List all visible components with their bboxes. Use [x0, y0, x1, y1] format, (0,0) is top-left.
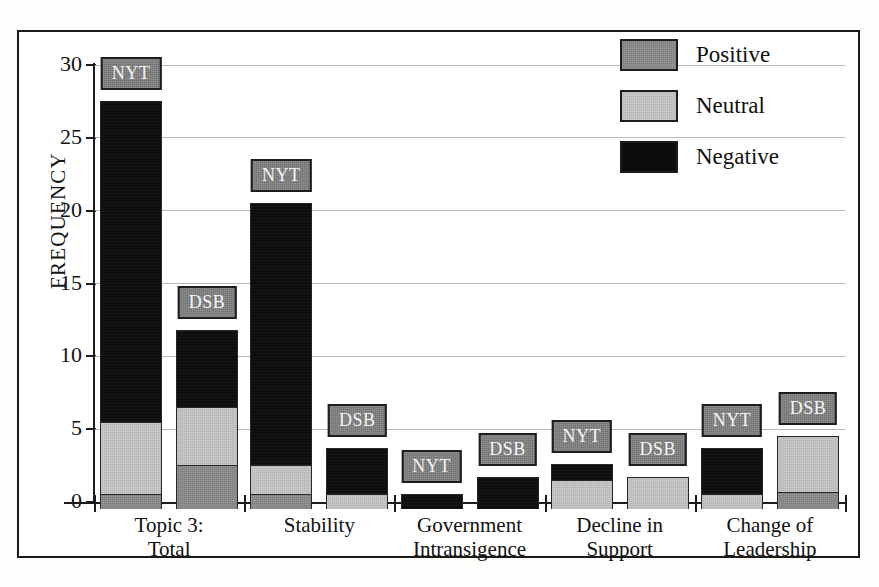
series-tag-dsb: DSB: [178, 286, 237, 319]
x-axis-group-label: Decline inSupport: [576, 514, 663, 562]
stacked-bar: [176, 330, 238, 509]
x-axis-label-line: Support: [576, 538, 663, 562]
x-axis-label-line: Intransigence: [413, 538, 526, 562]
negative-segment: [100, 101, 162, 421]
neutral-segment: [250, 465, 312, 494]
y-axis-tick-label: 25: [38, 126, 82, 148]
x-axis-group-label: GovernmentIntransigence: [413, 514, 526, 562]
series-tag-nyt: NYT: [401, 450, 462, 483]
x-axis-label-line: Leadership: [723, 538, 816, 562]
x-axis-group-label: Stability: [284, 514, 355, 538]
stacked-bar: [250, 203, 312, 509]
legend-swatch-negative: [620, 141, 678, 173]
negative-segment: [250, 203, 312, 465]
positive-segment: [250, 494, 312, 509]
stacked-bar: [100, 101, 162, 509]
figure: FREQUENCY 051015202530 NYTDSBNYTDSBNYTDS…: [0, 0, 879, 587]
negative-segment: [401, 494, 463, 509]
stacked-bar: [477, 477, 539, 509]
x-axis-label-line: Change of: [723, 514, 816, 538]
negative-segment: [326, 448, 388, 495]
positive-segment: [176, 465, 238, 509]
stacked-bar: [627, 477, 689, 509]
stacked-bar: [326, 448, 388, 509]
negative-segment: [551, 464, 613, 480]
series-tag-dsb: DSB: [628, 433, 687, 466]
group-separator: [94, 495, 96, 512]
legend-label: Positive: [696, 42, 770, 68]
neutral-segment: [701, 494, 763, 509]
legend-item-negative[interactable]: Negative: [620, 136, 850, 178]
y-axis-tick-label: 0: [38, 490, 82, 512]
positive-segment: [777, 492, 839, 509]
x-axis-label-line: Topic 3:: [135, 514, 204, 538]
group-separator: [394, 495, 396, 512]
y-axis-tick-label: 15: [38, 272, 82, 294]
neutral-segment: [551, 480, 613, 509]
series-tag-dsb: DSB: [478, 433, 537, 466]
legend: PositiveNeutralNegative: [620, 34, 850, 187]
legend-label: Neutral: [696, 93, 765, 119]
neutral-segment: [627, 477, 689, 509]
legend-item-positive[interactable]: Positive: [620, 34, 850, 76]
y-axis-tick-label: 30: [38, 53, 82, 75]
y-axis-tick-label: 5: [38, 417, 82, 439]
positive-segment: [100, 494, 162, 509]
x-axis-label-line: Total: [135, 538, 204, 562]
series-tag-dsb: DSB: [779, 392, 838, 425]
negative-segment: [477, 477, 539, 509]
negative-segment: [701, 448, 763, 495]
group-separator: [845, 495, 847, 512]
legend-swatch-positive: [620, 39, 678, 71]
legend-swatch-neutral: [620, 90, 678, 122]
x-axis-group-label: Topic 3:Total: [135, 514, 204, 562]
neutral-segment: [777, 436, 839, 491]
series-tag-nyt: NYT: [101, 57, 162, 90]
series-tag-nyt: NYT: [702, 404, 763, 437]
x-axis-label-line: Stability: [284, 514, 355, 538]
group-separator: [545, 495, 547, 512]
legend-item-neutral[interactable]: Neutral: [620, 85, 850, 127]
stacked-bar: [401, 494, 463, 509]
neutral-segment: [100, 422, 162, 495]
stacked-bar: [777, 436, 839, 509]
series-tag-nyt: NYT: [551, 420, 612, 453]
group-separator: [244, 495, 246, 512]
stacked-bar: [551, 464, 613, 509]
neutral-segment: [326, 494, 388, 509]
series-tag-nyt: NYT: [251, 159, 312, 192]
y-axis-tick-label: 20: [38, 199, 82, 221]
legend-label: Negative: [696, 144, 779, 170]
y-axis-tick-label: 10: [38, 344, 82, 366]
neutral-segment: [176, 407, 238, 465]
series-tag-dsb: DSB: [328, 404, 387, 437]
stacked-bar: [701, 448, 763, 509]
x-axis-label-line: Decline in: [576, 514, 663, 538]
negative-segment: [176, 330, 238, 407]
group-separator: [695, 495, 697, 512]
x-axis-group-label: Change ofLeadership: [723, 514, 816, 562]
x-axis-label-line: Government: [413, 514, 526, 538]
